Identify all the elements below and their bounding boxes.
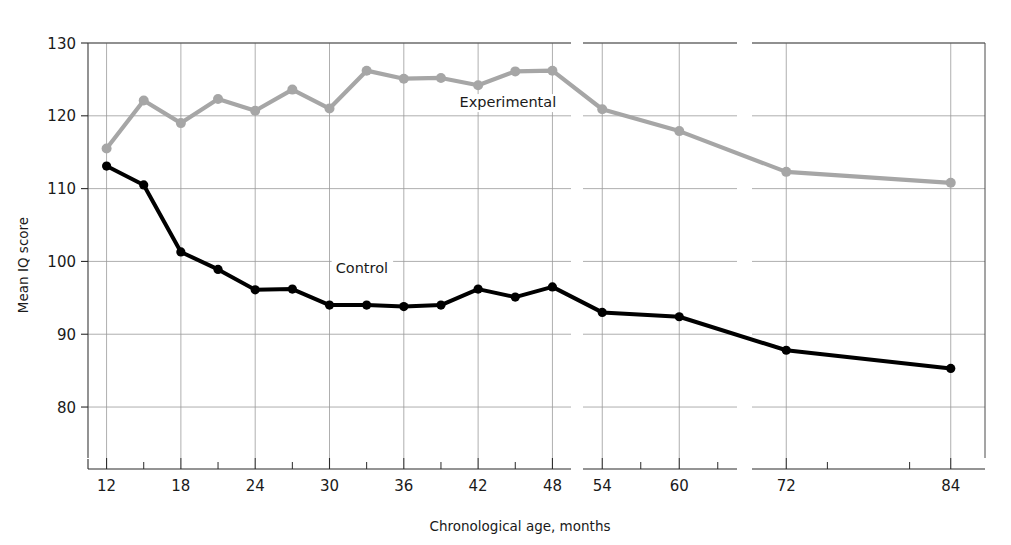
data-point (325, 104, 335, 114)
series-annotations: ExperimentalControl (332, 94, 562, 278)
data-point (176, 118, 186, 128)
data-point (674, 126, 684, 136)
data-point (362, 301, 371, 310)
x-tick-label: 12 (97, 477, 116, 495)
data-point (325, 301, 334, 310)
data-point (782, 346, 791, 355)
data-point (288, 284, 297, 293)
x-tick-label: 48 (543, 477, 562, 495)
series-experimental (102, 66, 956, 188)
data-point (474, 284, 483, 293)
series-annotation-experimental: Experimental (460, 94, 557, 110)
data-point (597, 104, 607, 114)
x-tick-label: 60 (670, 477, 689, 495)
data-point (436, 73, 446, 83)
series-line (107, 166, 951, 368)
x-tick-label: 24 (246, 477, 265, 495)
y-tick-label: 90 (57, 326, 76, 344)
data-point (102, 161, 111, 170)
y-tick-label: 100 (47, 253, 76, 271)
data-point (946, 364, 955, 373)
iq-line-chart: 80901001101201301218243036424854607284 E… (0, 0, 1011, 545)
x-tick-label: 42 (469, 477, 488, 495)
data-point (511, 293, 520, 302)
data-point (548, 282, 557, 291)
series-annotation-control: Control (336, 260, 388, 276)
series-line (107, 71, 951, 183)
data-point (251, 285, 260, 294)
data-point (399, 302, 408, 311)
data-point (213, 94, 223, 104)
x-tick-label: 36 (394, 477, 413, 495)
data-point (598, 308, 607, 317)
x-tick-label: 54 (593, 477, 612, 495)
data-point (781, 167, 791, 177)
data-point (473, 80, 483, 90)
x-tick-label: 72 (777, 477, 796, 495)
series-control (102, 161, 955, 373)
data-point (102, 144, 112, 154)
x-tick-label: 18 (171, 477, 190, 495)
y-tick-label: 80 (57, 399, 76, 417)
y-axis-title: Mean IQ score (15, 217, 31, 313)
data-point (250, 106, 260, 116)
x-tick-label: 30 (320, 477, 339, 495)
data-point (946, 178, 956, 188)
data-point (362, 66, 372, 76)
data-point (139, 180, 148, 189)
data-point (399, 74, 409, 84)
data-point (287, 85, 297, 95)
y-tick-label: 110 (47, 180, 76, 198)
y-tick-label: 120 (47, 107, 76, 125)
data-point (139, 96, 149, 106)
data-point (510, 66, 520, 76)
data-point (436, 301, 445, 310)
x-axis-title: Chronological age, months (430, 518, 611, 534)
data-point (675, 312, 684, 321)
data-point (176, 247, 185, 256)
x-tick-label: 84 (941, 477, 960, 495)
data-point (213, 265, 222, 274)
data-point (547, 66, 557, 76)
chart-figure: 80901001101201301218243036424854607284 E… (0, 0, 1011, 545)
y-tick-label: 130 (47, 35, 76, 53)
